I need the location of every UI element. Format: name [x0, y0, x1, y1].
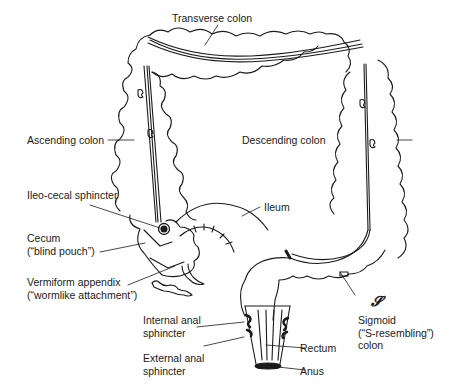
- appendix-shape: [152, 264, 204, 296]
- label-cecum: Cecum (“blind pouch”): [27, 232, 95, 257]
- label-internal-anal-line2: sphincter: [143, 327, 201, 340]
- ascending-colon-shape: [111, 35, 196, 222]
- label-rectum: Rectum: [300, 342, 336, 355]
- label-sigmoid-line1: Sigmoid: [358, 314, 434, 327]
- label-ascending-colon: Ascending colon: [27, 134, 104, 147]
- rectum-shape: [245, 306, 290, 369]
- label-external-anal-line1: External anal: [143, 352, 204, 365]
- label-sigmoid-colon: Sigmoid (“S-resembling”) colon: [358, 314, 434, 352]
- label-external-anal-sphincter: External anal sphincter: [143, 352, 204, 377]
- label-descending-colon: Descending colon: [242, 134, 325, 147]
- ileum-shape: [176, 203, 268, 252]
- transverse-colon-shape: [148, 28, 363, 79]
- label-sigmoid-line3: colon: [358, 339, 434, 352]
- cecum-shape: [130, 215, 200, 277]
- label-appendix-line2: (“wormlike attachment”): [27, 289, 137, 302]
- label-ileocecal-sphincter: Ileo-cecal sphincter: [27, 189, 117, 202]
- label-anus: Anus: [300, 365, 324, 378]
- descending-colon-shape: [330, 60, 408, 258]
- label-appendix: Vermiform appendix (“wormlike attachment…: [27, 276, 137, 301]
- label-sigmoid-line2: (“S-resembling”): [358, 327, 434, 340]
- label-external-anal-line2: sphincter: [143, 365, 204, 378]
- label-transverse-colon: Transverse colon: [172, 12, 252, 25]
- label-internal-anal-line1: Internal anal: [143, 314, 201, 327]
- label-internal-anal-sphincter: Internal anal sphincter: [143, 314, 201, 339]
- label-cecum-line2: (“blind pouch”): [27, 245, 95, 258]
- label-cecum-line1: Cecum: [27, 232, 95, 245]
- label-ileum: Ileum: [264, 201, 290, 214]
- sigmoid-s-symbol-icon: 𝓢: [371, 296, 382, 309]
- label-appendix-line1: Vermiform appendix: [27, 276, 137, 289]
